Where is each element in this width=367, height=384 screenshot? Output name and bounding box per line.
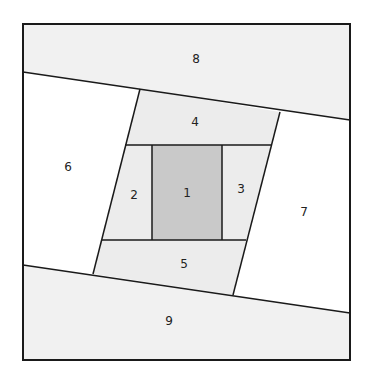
piece-1-label: 1: [183, 186, 191, 200]
piece-5-label: 5: [180, 257, 188, 271]
piece-2-label: 2: [130, 188, 138, 202]
piece-7-label: 7: [300, 205, 308, 219]
piece-8-label: 8: [192, 52, 200, 66]
piece-9-label: 9: [165, 314, 173, 328]
piece-4-label: 4: [191, 115, 199, 129]
piece-3-label: 3: [237, 182, 245, 196]
piece-6-label: 6: [64, 160, 72, 174]
quilt-block-diagram: 1 2 3 4 5 6 7 8 9: [0, 0, 367, 384]
